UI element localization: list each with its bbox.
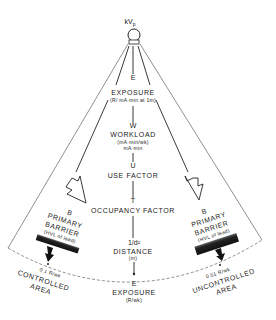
beam-inner-lines	[76, 46, 188, 172]
right-barrier-symbol: B	[201, 207, 208, 215]
distance-symbol: 1/d²	[128, 239, 141, 246]
source-kvp-label: kVp	[125, 18, 136, 27]
right-barrier-group: B PRIMARY BARRIER (HVL of lead)	[184, 201, 239, 255]
use-factor-title: USE FACTOR	[108, 172, 159, 179]
radiation-shielding-diagram: kVp Ė EXPOSURE (R/ mA·min at 1m) W WORK…	[0, 0, 276, 320]
occupancy-factor-title: OCCUPANCY FACTOR	[91, 207, 175, 214]
exposure-rate-title: EXPOSURE	[111, 89, 155, 96]
right-transmitted-arrow-icon	[215, 248, 225, 266]
measurement-point	[133, 273, 135, 275]
controlled-area-labels: 0.1 R/wk CONTROLLED AREA	[14, 260, 73, 300]
workload-symbol: W	[130, 122, 137, 129]
uncontrolled-area-labels: 0.01 R/wk UNCONTROLLED AREA	[189, 259, 259, 303]
distance-unit: (m)	[129, 255, 137, 261]
distance-title: DISTANCE	[113, 248, 153, 255]
left-beam-arrow-icon	[66, 176, 86, 203]
left-barrier-group: B PRIMARY BARRIER (HVL of lead)	[36, 202, 90, 254]
exposure-unit: (R/wk)	[126, 297, 142, 303]
xray-tube-icon	[128, 29, 140, 44]
workload-title: WORKLOAD	[110, 131, 156, 138]
use-factor-symbol: U	[130, 162, 135, 169]
right-beam-arrow-icon	[185, 176, 203, 200]
exposure-title: EXPOSURE	[112, 289, 156, 296]
exposure-symbol: E	[132, 280, 137, 287]
exposure-rate-symbol: Ė	[131, 73, 136, 81]
workload-unit-2: mA·min	[123, 145, 142, 151]
left-barrier-symbol: B	[67, 209, 74, 217]
left-transmitted-arrow-icon	[45, 246, 54, 265]
exposure-rate-unit: (R/ mA·min at 1m)	[110, 97, 156, 103]
occupancy-factor-symbol: T	[131, 197, 136, 204]
